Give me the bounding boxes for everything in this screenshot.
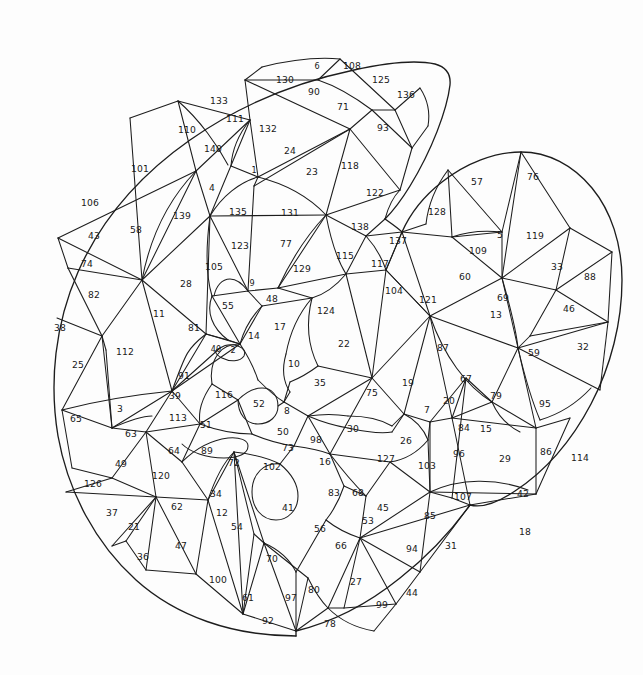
region-number-119: 119 [526, 231, 544, 240]
region-number-90: 90 [308, 87, 320, 96]
region-number-77: 77 [280, 239, 292, 248]
region-number-30: 30 [347, 424, 359, 433]
region-number-109: 109 [469, 246, 487, 255]
region-number-49: 49 [115, 459, 127, 468]
region-number-35: 35 [314, 378, 326, 387]
region-number-51: 51 [200, 420, 212, 429]
region-number-98: 98 [310, 435, 322, 444]
region-number-117: 117 [371, 259, 389, 268]
region-number-114: 114 [571, 453, 589, 462]
region-number-21: 21 [128, 522, 140, 531]
region-number-17: 17 [274, 322, 286, 331]
region-number-116: 116 [215, 390, 233, 399]
region-number-25: 25 [72, 360, 84, 369]
region-number-68: 68 [352, 488, 364, 497]
region-number-118: 118 [341, 161, 359, 170]
region-number-70: 70 [266, 554, 278, 563]
region-number-24: 24 [284, 146, 296, 155]
region-number-63: 63 [125, 429, 137, 438]
region-number-20: 20 [443, 396, 455, 405]
region-number-42: 42 [517, 489, 529, 498]
region-number-28: 28 [180, 279, 192, 288]
region-number-59: 59 [528, 348, 540, 357]
region-number-50: 50 [277, 427, 289, 436]
region-number-52: 52 [253, 399, 265, 408]
color-by-numbers-canvas: 6108130125901361337111113211093140241012… [0, 0, 643, 675]
region-number-67: 67 [460, 374, 472, 383]
region-number-18: 18 [519, 527, 531, 536]
region-number-124: 124 [317, 306, 335, 315]
region-number-31: 31 [445, 541, 457, 550]
lily-pad-diagram [0, 0, 643, 675]
region-number-1: 1 [251, 166, 256, 174]
region-number-9: 9 [249, 279, 254, 287]
region-number-120: 120 [152, 471, 170, 480]
region-number-12: 12 [216, 508, 228, 517]
region-number-106: 106 [81, 198, 99, 207]
region-number-83: 83 [328, 488, 340, 497]
region-number-86: 86 [540, 447, 552, 456]
region-number-41: 41 [282, 503, 294, 512]
region-number-23: 23 [306, 167, 318, 176]
region-number-111: 111 [226, 114, 244, 123]
region-number-127: 127 [377, 454, 395, 463]
region-number-138: 138 [351, 222, 369, 231]
region-number-100: 100 [209, 575, 227, 584]
region-number-39: 39 [169, 391, 181, 400]
region-number-76: 76 [527, 172, 539, 181]
region-number-85: 85 [424, 511, 436, 520]
region-number-46: 46 [563, 304, 575, 313]
region-number-92: 92 [262, 616, 274, 625]
region-number-97: 97 [285, 593, 297, 602]
region-number-5: 5 [497, 230, 503, 239]
region-number-27: 27 [350, 577, 362, 586]
region-number-3: 3 [117, 404, 123, 413]
region-number-96: 96 [453, 449, 465, 458]
region-number-19: 19 [402, 378, 414, 387]
region-number-80: 80 [308, 585, 320, 594]
region-number-13: 13 [490, 310, 502, 319]
region-number-125: 125 [372, 75, 390, 84]
region-number-71: 71 [337, 102, 349, 111]
region-number-84: 84 [458, 423, 470, 432]
region-number-126: 126 [84, 479, 102, 488]
region-number-107: 107 [454, 492, 472, 501]
region-number-47: 47 [175, 541, 187, 550]
region-number-33: 33 [551, 262, 563, 271]
region-number-62: 62 [171, 502, 183, 511]
region-number-32: 32 [577, 342, 589, 351]
region-number-55: 55 [222, 301, 234, 310]
region-number-14: 14 [248, 331, 260, 340]
region-number-8: 8 [284, 406, 290, 415]
right-lobe-lines [386, 152, 612, 572]
region-number-105: 105 [205, 262, 223, 271]
region-number-94: 94 [406, 544, 418, 553]
region-number-95: 95 [539, 399, 551, 408]
region-number-34: 34 [210, 489, 222, 498]
region-number-66: 66 [335, 541, 347, 550]
region-number-4: 4 [209, 183, 215, 192]
region-number-130: 130 [276, 75, 294, 84]
region-number-16: 16 [319, 457, 331, 466]
main-leaf-notch [385, 219, 402, 232]
region-number-26: 26 [400, 436, 412, 445]
region-number-110: 110 [178, 125, 196, 134]
region-number-81: 81 [188, 323, 200, 332]
region-number-140: 140 [204, 144, 222, 153]
region-number-43: 43 [88, 231, 100, 240]
region-number-79: 79 [490, 391, 502, 400]
region-number-45: 45 [377, 503, 389, 512]
region-number-72: 72 [228, 458, 240, 467]
region-number-53: 53 [362, 516, 374, 525]
region-number-132: 132 [259, 124, 277, 133]
region-number-129: 129 [293, 264, 311, 273]
region-number-10: 10 [288, 359, 300, 368]
region-number-58: 58 [130, 225, 142, 234]
region-number-101: 101 [131, 164, 149, 173]
region-number-128: 128 [428, 207, 446, 216]
region-number-54: 54 [231, 522, 243, 531]
region-number-135: 135 [229, 207, 247, 216]
region-number-115: 115 [336, 251, 354, 260]
region-number-7: 7 [424, 405, 430, 414]
region-number-65: 65 [70, 414, 82, 423]
